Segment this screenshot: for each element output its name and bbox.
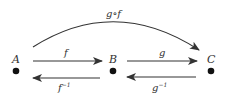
node-dot-b bbox=[110, 68, 117, 75]
edge-label-g-inverse: g−1 bbox=[152, 81, 167, 93]
edge-f: f bbox=[33, 47, 102, 61]
node-c: C bbox=[207, 53, 216, 74]
node-dot-a bbox=[13, 68, 20, 75]
node-label-a: A bbox=[11, 53, 20, 66]
edge-label-f: f bbox=[63, 47, 70, 58]
node-dot-c bbox=[208, 68, 215, 75]
edge-g-inverse: g−1 bbox=[127, 77, 196, 93]
curved-arrow bbox=[33, 22, 199, 50]
edge-label-g: g bbox=[159, 47, 165, 58]
node-a: A bbox=[11, 53, 20, 74]
edge-label-g-compose-f: g∘f bbox=[106, 8, 123, 19]
edge-g-compose-f: g∘f bbox=[33, 8, 199, 50]
edge-g: g bbox=[127, 47, 197, 61]
node-label-c: C bbox=[207, 53, 216, 66]
edge-f-inverse: f−1 bbox=[33, 78, 100, 93]
edge-label-f-inverse: f−1 bbox=[57, 81, 71, 93]
node-label-b: B bbox=[108, 53, 117, 66]
function-composition-diagram: g∘f f f−1 g g−1 A B C bbox=[0, 0, 228, 98]
node-b: B bbox=[108, 53, 117, 74]
